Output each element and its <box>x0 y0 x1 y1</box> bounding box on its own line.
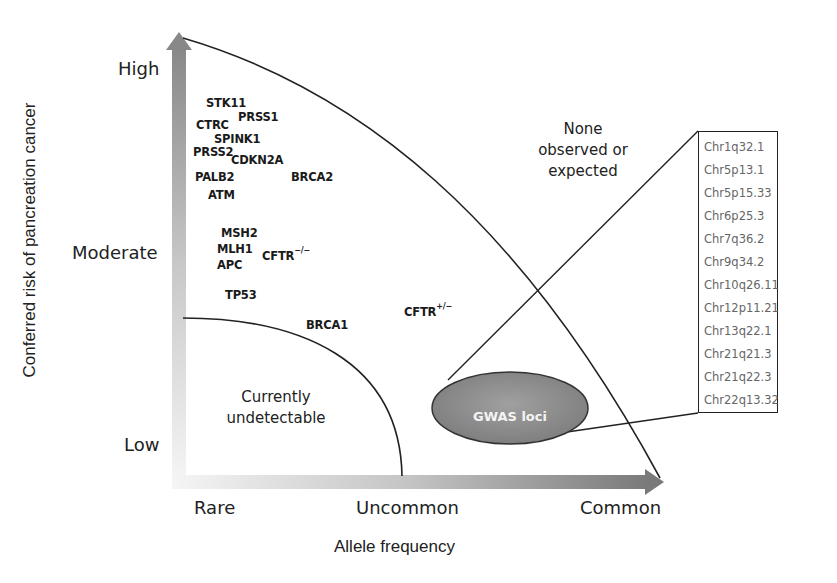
y-tick-high: High <box>118 58 159 79</box>
gene-label: MSH2 <box>221 226 258 240</box>
locus-item: Chr5p15.33 <box>704 182 777 205</box>
locus-item: Chr9q34.2 <box>704 251 777 274</box>
gene-genotype: −/− <box>294 246 310 255</box>
gene-label: CDKN2A <box>231 153 283 167</box>
gwas-loci-list: Chr1q32.1 Chr5p13.1 Chr5p15.33 Chr6p25.3… <box>698 131 778 413</box>
gene-label: SPINK1 <box>214 132 260 146</box>
region-none-observed: None observed or expected <box>528 119 638 182</box>
gene-name: CFTR <box>404 305 436 319</box>
region-none-line2: observed or <box>528 140 638 161</box>
figure: Conferred risk of pancreation cancer Hig… <box>0 0 837 583</box>
gene-label: MLH1 <box>217 242 253 256</box>
gwas-ellipse <box>432 372 588 444</box>
x-axis-title: Allele frequency <box>334 537 455 557</box>
x-axis-arrow <box>172 469 664 495</box>
x-tick-rare: Rare <box>194 497 235 518</box>
locus-item: Chr13q22.1 <box>704 320 777 343</box>
locus-item: Chr6p25.3 <box>704 205 777 228</box>
locus-item: Chr10q26.11 <box>704 274 777 297</box>
gwas-loci-label: GWAS loci <box>440 409 580 424</box>
x-tick-common: Common <box>580 497 661 518</box>
gene-label: STK11 <box>206 96 246 110</box>
y-axis-title: Conferred risk of pancreation cancer <box>20 103 40 378</box>
gene-label: PALB2 <box>195 170 234 184</box>
gene-genotype: +/− <box>436 302 452 311</box>
y-axis-arrow <box>166 32 192 482</box>
locus-item: Chr22q13.32 <box>704 389 777 412</box>
gene-label: PRSS1 <box>238 110 278 124</box>
y-tick-low: Low <box>124 434 159 455</box>
locus-item: Chr21q22.3 <box>704 366 777 389</box>
locus-item: Chr21q21.3 <box>704 343 777 366</box>
locus-item: Chr7q36.2 <box>704 228 777 251</box>
region-undetectable: Currently undetectable <box>214 387 338 429</box>
gene-name: CFTR <box>262 249 294 263</box>
y-tick-moderate: Moderate <box>72 242 158 263</box>
gene-label: BRCA1 <box>306 318 348 332</box>
gene-label: PRSS2 <box>193 145 233 159</box>
locus-item: Chr12p11.21 <box>704 297 777 320</box>
gene-label: ATM <box>208 188 235 202</box>
locus-item: Chr1q32.1 <box>704 136 777 159</box>
gene-label-cftr-heterozygous: CFTR+/− <box>404 305 452 319</box>
region-undetectable-line1: Currently <box>214 387 338 408</box>
locus-item: Chr5p13.1 <box>704 159 777 182</box>
region-undetectable-line2: undetectable <box>214 408 338 429</box>
region-none-line3: expected <box>528 161 638 182</box>
region-none-line1: None <box>528 119 638 140</box>
gene-label: CTRC <box>196 118 229 132</box>
x-tick-uncommon: Uncommon <box>356 497 459 518</box>
gene-label: BRCA2 <box>291 170 333 184</box>
gene-label-cftr-homozygous: CFTR−/− <box>262 249 310 263</box>
gene-label: TP53 <box>225 288 256 302</box>
gene-label: APC <box>217 258 242 272</box>
